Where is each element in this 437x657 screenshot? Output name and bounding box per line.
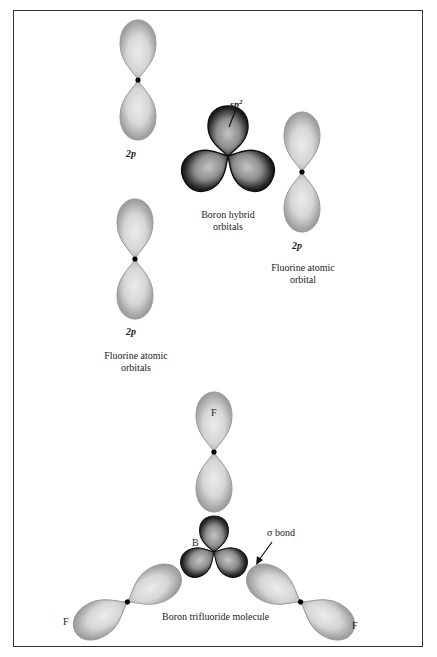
orbital-diagram <box>0 0 437 657</box>
boron-hybrid-line2: orbitals <box>196 221 260 233</box>
fluorine-2p-orbital-right <box>284 112 320 232</box>
label-2p-left-middle: 2p <box>126 326 136 338</box>
fluorine-orbitals-line2: orbitals <box>101 362 171 374</box>
label-atom-f-top: F <box>211 407 217 419</box>
nucleus-dot <box>132 256 137 261</box>
sigma-bond-arrow <box>256 542 272 565</box>
label-atom-b: B <box>192 537 199 549</box>
fluorine-orbital-line2: orbital <box>268 274 338 286</box>
nucleus-dot <box>135 77 140 82</box>
boron-hybrid-line1: Boron hybrid <box>196 209 260 221</box>
boron-sp2-hybrid-orbitals <box>175 106 282 198</box>
label-atom-f-right: F <box>352 620 358 632</box>
label-sigma-bond: σ bond <box>267 527 295 539</box>
fluorine-2p-orbital-top-left <box>120 20 156 140</box>
fluorine-orbital-line1: Fluorine atomic <box>268 262 338 274</box>
sp2-text: sp <box>230 99 239 110</box>
fluorine-2p-orbital-left-middle <box>117 199 153 319</box>
label-2p-right: 2p <box>292 240 302 252</box>
label-fluorine-atomic-orbitals: Fluorine atomic orbitals <box>101 350 171 374</box>
sp2-superscript: 2 <box>239 98 243 106</box>
label-boron-hybrid-orbitals: Boron hybrid orbitals <box>196 209 260 233</box>
label-2p-top-left: 2p <box>126 148 136 160</box>
label-atom-f-left: F <box>63 616 69 628</box>
boron-trifluoride-molecule <box>66 392 361 648</box>
nucleus-dot <box>299 169 304 174</box>
label-fluorine-atomic-orbital: Fluorine atomic orbital <box>268 262 338 286</box>
fluorine-orbitals-line1: Fluorine atomic <box>101 350 171 362</box>
label-sp2: sp2 <box>230 96 242 111</box>
label-molecule-caption: Boron trifluoride molecule <box>162 611 269 623</box>
